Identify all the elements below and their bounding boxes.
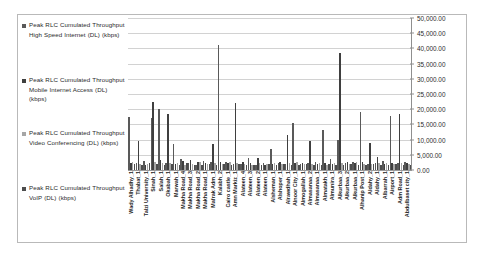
y-axis-tick-label: 20,000.00 bbox=[410, 106, 462, 113]
legend-item[interactable]: Peak RLC Cumulated Throughput VoIP (DL) … bbox=[22, 183, 126, 202]
y-axis-tick-label: 15,000.00 bbox=[410, 121, 462, 128]
bar-group bbox=[345, 18, 352, 170]
x-axis-tick-label: Marwah_1 bbox=[174, 171, 179, 197]
x-axis-tick-label: Alshoper_1 bbox=[278, 171, 283, 200]
bar-group bbox=[352, 18, 359, 170]
y-axis-tick-label: 5,000.00 bbox=[410, 151, 462, 158]
bar-group bbox=[143, 18, 150, 170]
bar-group bbox=[292, 18, 299, 170]
x-axis-category: Aldahy_1 bbox=[374, 171, 381, 241]
legend-item[interactable]: Peak RLC Cumulated Throughput Video Conf… bbox=[22, 128, 126, 147]
bar bbox=[167, 114, 169, 170]
x-axis-category: Alateen_1 bbox=[262, 171, 269, 241]
bar-group bbox=[150, 18, 157, 170]
legend-item-label: Peak RLC Cumulated Throughput Video Conf… bbox=[29, 128, 126, 147]
x-axis-category: Alnoor City_1 bbox=[292, 171, 299, 241]
x-axis-category: Alrawdhah_1 bbox=[285, 171, 292, 241]
legend-swatch-icon bbox=[22, 187, 26, 191]
x-axis-tick-label: Makha Road_3 bbox=[189, 171, 194, 209]
x-axis-tick-label: Sinah_1 bbox=[151, 171, 156, 192]
legend-item-label: Peak RLC Cumulated Throughput High Speed… bbox=[29, 20, 126, 39]
bar-group bbox=[374, 18, 381, 170]
x-axis-tick-label: Thabat_1 bbox=[137, 171, 142, 195]
y-axis-tick-label: 50,000.00 bbox=[410, 15, 462, 22]
x-axis-tick-label: Almogallah_1 bbox=[301, 171, 306, 206]
bar-group bbox=[307, 18, 314, 170]
x-axis-tick-label: Almasanaa_2 bbox=[308, 171, 313, 205]
bar bbox=[339, 53, 341, 170]
x-axis-tick-label: Adm Road_1 bbox=[398, 171, 403, 204]
bar-group bbox=[255, 18, 262, 170]
x-axis-category: Almunira_1 bbox=[330, 171, 337, 241]
x-axis-tick-label: Almatakh_1 bbox=[323, 171, 328, 201]
x-axis-tick-label: Makha Road_4 bbox=[181, 171, 186, 209]
x-axis-tick-label: Alrawdhah_1 bbox=[286, 171, 291, 205]
legend-swatch-icon bbox=[22, 24, 26, 28]
bar-group bbox=[277, 18, 284, 170]
y-axis-tick-label: 45,000.00 bbox=[410, 30, 462, 37]
x-axis-category: Airport_1 bbox=[389, 171, 396, 241]
x-axis: Wady Alhadhy_1Thabat_1Talzi University_1… bbox=[128, 171, 412, 241]
x-axis-category: Marwah_1 bbox=[173, 171, 180, 241]
bar-group bbox=[210, 18, 217, 170]
x-axis-category: Abdulbaset city_1 bbox=[404, 171, 411, 241]
bar bbox=[218, 45, 220, 170]
x-axis-tick-label: Alkurbaa_1 bbox=[353, 171, 358, 200]
x-axis-tick-label: Alkurbaa_3 bbox=[338, 171, 343, 200]
x-axis-tick-label: Wady Alhadhy_1 bbox=[129, 171, 134, 214]
bar-group bbox=[397, 18, 404, 170]
bar-group bbox=[165, 18, 172, 170]
x-axis-tick-label: Alateen_4 bbox=[241, 171, 246, 196]
x-axis-tick-label: Alsheman_1 bbox=[271, 171, 276, 203]
plot-area bbox=[128, 18, 412, 170]
x-axis-tick-label: Makha Road_2 bbox=[196, 171, 201, 209]
x-axis-category: Salah_1 bbox=[158, 171, 165, 241]
bar-group bbox=[173, 18, 180, 170]
x-axis-tick-label: Alkurbaa_2 bbox=[346, 171, 351, 200]
legend-swatch-icon bbox=[22, 79, 26, 83]
bar-group bbox=[158, 18, 165, 170]
bar-group bbox=[195, 18, 202, 170]
bar-group bbox=[337, 18, 344, 170]
x-axis-category: Albarrah_1 bbox=[382, 171, 389, 241]
x-axis-tick-label: Almasanaa_1 bbox=[316, 171, 321, 205]
x-axis-category: Makha Road_1 bbox=[203, 171, 210, 241]
y-axis-tick-label: 30,000.00 bbox=[410, 75, 462, 82]
x-axis-tick-label: Mafrak Adm_1 bbox=[211, 171, 216, 208]
x-axis-tick-label: Kalabh_2 bbox=[219, 171, 224, 195]
bar-group bbox=[188, 18, 195, 170]
bar bbox=[152, 102, 154, 170]
x-axis-tick-label: Abdulbaset city_1 bbox=[405, 171, 410, 217]
bar-group bbox=[360, 18, 367, 170]
x-axis-category: Thabat_1 bbox=[135, 171, 142, 241]
legend-item[interactable]: Peak RLC Cumulated Throughput Mobile Int… bbox=[22, 75, 126, 104]
x-axis-tick-label: Almunira_1 bbox=[331, 171, 336, 200]
bar-group bbox=[382, 18, 389, 170]
x-axis-tick-label: Aldahy_1 bbox=[376, 171, 381, 195]
x-axis-category: Alshoper_1 bbox=[277, 171, 284, 241]
y-axis-tick-label: 25,000.00 bbox=[410, 91, 462, 98]
chart-container: Peak RLC Cumulated Throughput High Speed… bbox=[17, 14, 467, 243]
x-axis-category: Talzi University_1 bbox=[143, 171, 150, 241]
x-axis-tick-label: Alhanip Post_1 bbox=[361, 171, 366, 210]
bar bbox=[128, 117, 130, 170]
y-axis-tick-label: 10,000.00 bbox=[410, 136, 462, 143]
legend-swatch-icon bbox=[22, 132, 26, 136]
bar-group bbox=[203, 18, 210, 170]
x-axis-category: Alsheman_1 bbox=[270, 171, 277, 241]
x-axis-tick-label: Albarrah_1 bbox=[383, 171, 388, 199]
bar-group bbox=[240, 18, 247, 170]
bar-group bbox=[285, 18, 292, 170]
x-axis-tick-label: Salah_1 bbox=[159, 171, 164, 191]
bar-group bbox=[135, 18, 142, 170]
x-axis-tick-label: Talzi University_1 bbox=[144, 171, 149, 216]
bar bbox=[399, 114, 401, 170]
legend-item[interactable]: Peak RLC Cumulated Throughput High Speed… bbox=[22, 20, 126, 39]
x-axis-tick-label: Alateen_1 bbox=[263, 171, 268, 196]
x-axis-category: Alkurbaa_2 bbox=[345, 171, 352, 241]
x-axis-category: Almogallah_1 bbox=[300, 171, 307, 241]
x-axis-tick-label: Aldahy_2 bbox=[368, 171, 373, 195]
x-axis-category: Almasanaa_1 bbox=[315, 171, 322, 241]
x-axis-tick-label: Amn Markiz_1 bbox=[234, 171, 239, 207]
x-axis-category: Sinah_1 bbox=[150, 171, 157, 241]
